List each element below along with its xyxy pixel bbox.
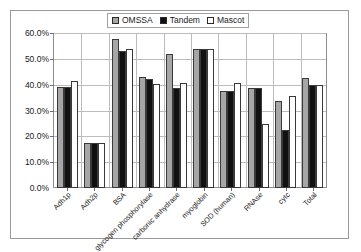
bar: [57, 87, 64, 188]
bar: [262, 124, 269, 188]
x-axis-tick-label: Adh1p: [52, 191, 73, 212]
legend-entry: Tandem: [160, 16, 200, 25]
bar: [98, 143, 105, 188]
y-axis-tick-labels: 60.0%50.0%40.0%30.0%20.0%10.0%0.0%: [11, 33, 49, 188]
chart-legend: OMSSATandemMascot: [107, 13, 249, 28]
legend-label: OMSSA: [122, 16, 153, 25]
bar: [180, 83, 187, 188]
chart-plot-wrapper: 60.0%50.0%40.0%30.0%20.0%10.0%0.0% Adh1p…: [11, 11, 350, 240]
bar-group: [81, 33, 108, 187]
bar: [126, 49, 133, 189]
plot-area: [53, 33, 327, 188]
bar: [248, 88, 255, 188]
bar-group: [217, 33, 244, 187]
chart-frame: 60.0%50.0%40.0%30.0%20.0%10.0%0.0% Adh1p…: [10, 10, 349, 239]
y-axis-tick-label: 50.0%: [9, 54, 49, 63]
x-axis-tick-label: Adh2p: [79, 191, 100, 212]
bar: [207, 49, 214, 189]
bar-group: [190, 33, 217, 187]
y-axis-tick-label: 40.0%: [9, 80, 49, 89]
black-swatch-icon: [160, 17, 167, 24]
legend-entry: Mascot: [207, 16, 244, 25]
bar-group: [272, 33, 299, 187]
bar: [166, 54, 173, 188]
gray-swatch-icon: [112, 17, 119, 24]
y-axis-tick-label: 10.0%: [9, 158, 49, 167]
bar-group: [108, 33, 135, 187]
bar-group: [299, 33, 326, 187]
x-axis-tick-label: RNAse: [242, 191, 264, 213]
x-axis-tick-labels: Adh1pAdh2pBSAglycogen phosphorylasecarbo…: [53, 189, 327, 239]
bar: [255, 88, 262, 188]
legend-label: Tandem: [170, 16, 200, 25]
bar: [309, 85, 316, 188]
bar: [275, 101, 282, 188]
x-axis-tick-label: cytc: [277, 191, 292, 206]
bar-group: [136, 33, 163, 187]
bar: [146, 79, 153, 188]
bar: [119, 51, 126, 188]
bars-layer: [54, 33, 326, 187]
bar: [112, 39, 119, 188]
white-swatch-icon: [207, 17, 214, 24]
x-axis-tick-label: BSA: [111, 191, 127, 207]
bar: [153, 84, 160, 188]
bar: [173, 88, 180, 188]
y-axis-tick-label: 30.0%: [9, 106, 49, 115]
legend-label: Mascot: [217, 16, 244, 25]
bar: [193, 49, 200, 189]
bar: [84, 143, 91, 188]
bar-group: [163, 33, 190, 187]
bar: [64, 87, 71, 188]
x-axis-tick-label: Total: [302, 191, 319, 208]
bar: [139, 77, 146, 188]
bar: [71, 81, 78, 188]
bar: [200, 49, 207, 189]
y-axis-tick-label: 0.0%: [9, 184, 49, 193]
bar: [316, 85, 323, 188]
bar: [289, 96, 296, 188]
bar-group: [244, 33, 271, 187]
y-axis-tick-label: 60.0%: [9, 29, 49, 38]
y-axis-tick-label: 20.0%: [9, 132, 49, 141]
bar: [227, 91, 234, 188]
bar: [220, 91, 227, 188]
bar-group: [54, 33, 81, 187]
bar: [302, 78, 309, 188]
legend-entry: OMSSA: [112, 16, 153, 25]
bar: [91, 143, 98, 188]
bar: [282, 130, 289, 188]
bar: [234, 83, 241, 188]
